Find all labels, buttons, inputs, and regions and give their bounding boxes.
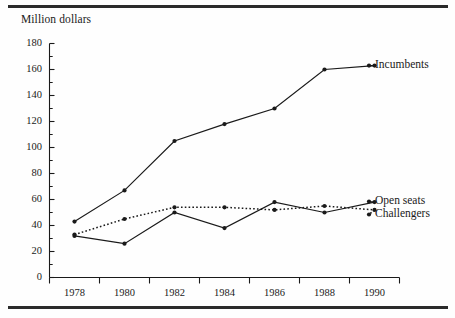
data-point: [272, 208, 276, 212]
x-tick-label: 1982: [150, 288, 200, 299]
legend-marker: [367, 199, 371, 203]
data-point: [172, 210, 176, 214]
series-label-challengers: Challengers: [375, 208, 430, 220]
data-point: [222, 226, 226, 230]
series-line-incumbents: [75, 66, 375, 222]
data-point: [272, 106, 276, 110]
y-tick-label: 180: [16, 38, 42, 49]
data-point: [322, 67, 326, 71]
chart-figure: Million dollars 020406080100120140160180…: [0, 0, 455, 318]
legend-marker: [367, 64, 371, 68]
x-tick-label: 1978: [50, 288, 100, 299]
data-point: [122, 242, 126, 246]
data-point: [322, 210, 326, 214]
data-point: [322, 204, 326, 208]
data-point: [172, 205, 176, 209]
legend-marker: [367, 212, 371, 216]
x-tick-label: 1988: [300, 288, 350, 299]
y-tick-label: 100: [16, 142, 42, 153]
y-tick-label: 120: [16, 116, 42, 127]
y-tick-label: 40: [16, 220, 42, 231]
plot-area: [0, 0, 455, 318]
series-lines: [72, 64, 376, 246]
series-label-open-seats: Open seats: [375, 195, 425, 207]
y-tick-label: 20: [16, 246, 42, 257]
y-tick-label: 60: [16, 194, 42, 205]
data-point: [72, 233, 76, 237]
series-label-incumbents: Incumbents: [375, 59, 429, 71]
legend-leaders: [367, 64, 375, 217]
y-tick-label: 80: [16, 168, 42, 179]
data-point: [272, 200, 276, 204]
x-tick-label: 1986: [250, 288, 300, 299]
y-tick-label: 160: [16, 64, 42, 75]
data-point: [122, 217, 126, 221]
data-point: [122, 188, 126, 192]
series-line-challengers: [75, 206, 375, 235]
data-point: [72, 220, 76, 224]
y-tick-label: 140: [16, 90, 42, 101]
data-point: [222, 122, 226, 126]
y-tick-label: 0: [16, 272, 42, 283]
x-tick-label: 1984: [200, 288, 250, 299]
axes: [50, 44, 400, 284]
x-tick-label: 1990: [350, 288, 400, 299]
data-point: [222, 205, 226, 209]
x-tick-label: 1980: [100, 288, 150, 299]
data-point: [172, 139, 176, 143]
